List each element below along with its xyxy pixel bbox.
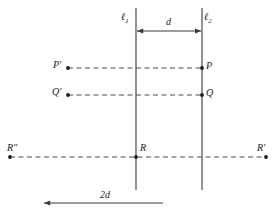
point-label-p-prime: P′: [53, 60, 61, 70]
line-label-l2: ℓ2: [204, 12, 212, 25]
line-label-l1: ℓ1: [121, 12, 129, 25]
point-label-p: P: [206, 61, 212, 71]
measure-label-2d: 2d: [100, 190, 110, 200]
point-dot-q: [200, 93, 204, 97]
geometry-figure: ℓ1 ℓ2 d 2d P′ P Q′ Q R″ R R′: [0, 0, 276, 215]
point-label-q-prime: Q′: [52, 87, 61, 97]
point-label-r-double-prime: R″: [7, 143, 17, 153]
point-label-q: Q: [206, 88, 213, 98]
point-dot-p: [200, 66, 204, 70]
measure-label-d: d: [166, 17, 171, 27]
point-dot-q-prime: [66, 93, 70, 97]
point-dot-r: [134, 155, 138, 159]
point-dot-r-double-prime: [8, 155, 12, 159]
point-dot-r-prime: [264, 155, 268, 159]
point-label-r: R: [140, 143, 146, 153]
point-dot-p-prime: [66, 66, 70, 70]
point-label-r-prime: R′: [257, 143, 265, 153]
figure-canvas: [0, 0, 276, 215]
